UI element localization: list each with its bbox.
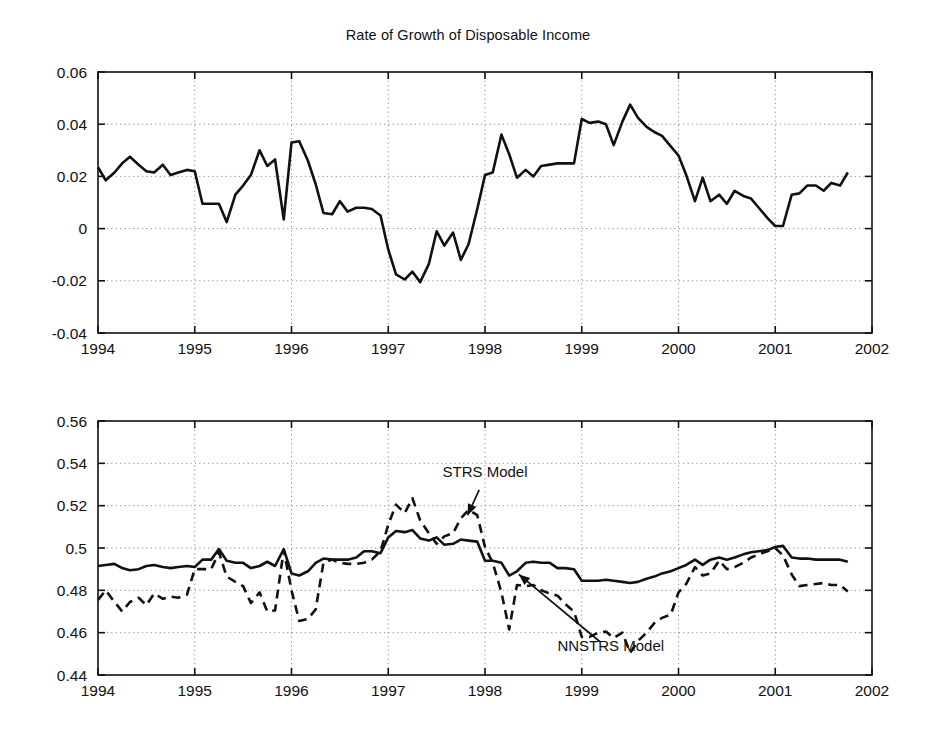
x-axis-tick-labels: 199419951996199719981999200020012002 (81, 682, 889, 699)
x-tick-label: 1995 (178, 682, 212, 699)
series-line-rate-of-growth-of-disposable-income (98, 105, 848, 282)
y-axis-tick-labels: -0.04-0.0200.020.040.06 (52, 64, 88, 342)
x-tick-label: 1999 (565, 340, 599, 357)
x-tick-label: 1999 (565, 682, 599, 699)
annotation-arrow-line-nnstrs-model (519, 574, 600, 641)
x-tick-label: 1998 (468, 682, 502, 699)
data-series-group (98, 498, 848, 653)
data-series-group (98, 105, 848, 282)
x-tick-label: 1994 (81, 340, 116, 357)
x-tick-label: 2002 (855, 682, 889, 699)
grid-lines (98, 421, 872, 675)
annotations-group: STRS ModelNNSTRS Model (442, 463, 664, 654)
y-tick-label: 0.06 (57, 64, 87, 81)
y-tick-label: -0.04 (52, 325, 88, 342)
series-line-nnstrs-model (98, 498, 848, 653)
chart-panel-transition-neurons: Transition Neurons 0.440.460.480.50.520.… (0, 376, 936, 746)
x-tick-label: 2000 (661, 682, 696, 699)
x-tick-label: 2002 (855, 340, 889, 357)
x-axis-tick-labels: 199419951996199719981999200020012002 (81, 340, 889, 357)
y-tick-label: 0.02 (57, 168, 87, 185)
y-tick-label: 0.5 (65, 540, 87, 557)
x-tick-label: 2001 (758, 340, 792, 357)
x-tick-label: 1995 (178, 340, 212, 357)
x-tick-label: 1996 (274, 340, 308, 357)
y-tick-label: 0 (78, 220, 87, 237)
y-tick-label: 0.52 (57, 497, 87, 514)
series-line-strs-model (98, 530, 848, 583)
y-axis-tick-labels: 0.440.460.480.50.520.540.56 (57, 413, 88, 684)
annotation-label-nnstrs-model: NNSTRS Model (557, 637, 664, 654)
x-tick-label: 1997 (371, 682, 405, 699)
y-tick-label: 0.56 (57, 413, 87, 430)
y-tick-label: -0.02 (52, 272, 87, 289)
y-tick-label: 0.54 (57, 455, 88, 472)
x-tick-label: 1996 (274, 682, 308, 699)
x-tick-label: 2001 (758, 682, 792, 699)
x-tick-label: 1997 (371, 340, 405, 357)
x-tick-label: 2000 (661, 340, 696, 357)
figure: Rate of Growth of Disposable Income -0.0… (0, 0, 936, 746)
plot-area-top: -0.04-0.0200.020.040.0619941995199619971… (0, 0, 936, 370)
x-tick-label: 1998 (468, 340, 502, 357)
y-tick-label: 0.46 (57, 624, 87, 641)
annotation-label-strs-model: STRS Model (442, 463, 527, 480)
y-tick-label: 0.04 (57, 116, 88, 133)
plot-area-bottom: 0.440.460.480.50.520.540.561994199519961… (0, 376, 936, 746)
x-tick-label: 1994 (81, 682, 116, 699)
y-tick-label: 0.44 (57, 667, 88, 684)
chart-panel-disposable-income: Rate of Growth of Disposable Income -0.0… (0, 0, 936, 370)
y-tick-label: 0.48 (57, 582, 87, 599)
